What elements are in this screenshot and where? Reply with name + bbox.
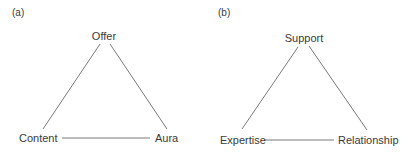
- node-offer: Offer: [92, 30, 116, 42]
- triangle-lines: [0, 0, 412, 154]
- node-content: Content: [19, 132, 58, 144]
- panel-b-right-edge: [309, 46, 367, 130]
- panel-b-left-edge: [242, 47, 298, 129]
- node-aura: Aura: [155, 132, 178, 144]
- panel-b-label: (b): [218, 7, 230, 19]
- panel-a-left-edge: [43, 44, 100, 129]
- node-expertise: Expertise: [220, 134, 266, 146]
- panel-a-right-edge: [110, 44, 167, 129]
- panel-a-label: (a): [12, 7, 24, 19]
- node-relationship: Relationship: [338, 134, 399, 146]
- node-support: Support: [285, 32, 324, 44]
